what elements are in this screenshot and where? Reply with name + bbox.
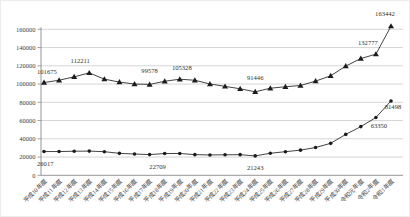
data-point-circle-marker [193, 153, 197, 157]
data-point-circle-marker [253, 154, 257, 158]
data-point-circle-marker [299, 148, 303, 152]
data-point-circle-marker [103, 150, 107, 154]
y-axis-tick-label: 120000 [16, 62, 36, 69]
data-point-circle-marker [72, 149, 76, 153]
data-point-circle-marker [359, 125, 363, 129]
data-point-circle-marker [314, 146, 318, 150]
data-point-circle-marker [148, 153, 152, 157]
data-point-circle-marker [208, 153, 212, 157]
data-point-circle-marker [178, 152, 182, 156]
data-point-value-label: 163442 [375, 10, 395, 17]
data-point-value-label: 63350 [371, 122, 388, 129]
data-point-circle-marker [42, 150, 46, 154]
data-point-circle-marker [163, 152, 167, 156]
data-point-value-label: 105328 [172, 64, 192, 71]
y-axis-tick-label: 0 [32, 172, 35, 179]
data-point-triangle-marker [328, 73, 334, 78]
data-point-value-label: 22709 [149, 163, 166, 170]
data-point-value-label: 91446 [247, 74, 264, 81]
data-point-triangle-marker [373, 51, 379, 56]
data-point-value-label: 21243 [247, 164, 264, 171]
line-chart-figure: 0200004000060000800001000001200001400001… [0, 0, 410, 217]
data-point-triangle-marker [177, 76, 183, 81]
lower-circle-series-line [44, 101, 391, 156]
y-axis-tick-label: 60000 [19, 117, 35, 124]
data-point-circle-marker [118, 152, 122, 156]
data-point-circle-marker [374, 116, 378, 120]
data-point-circle-marker [329, 142, 333, 146]
data-point-circle-marker [344, 133, 348, 137]
y-axis-tick-label: 40000 [19, 135, 35, 142]
data-point-triangle-marker [86, 70, 92, 75]
data-point-triangle-marker [388, 23, 394, 28]
data-point-value-label: 81498 [385, 103, 402, 110]
data-point-value-label: 26017 [37, 160, 54, 167]
line-chart-canvas: 0200004000060000800001000001200001400001… [1, 1, 410, 217]
data-point-circle-marker [133, 152, 137, 156]
y-axis-tick-label: 100000 [16, 80, 36, 87]
data-point-value-label: 112211 [71, 57, 90, 64]
y-axis-tick-label: 20000 [19, 153, 35, 160]
data-point-value-label: 99578 [141, 67, 158, 74]
y-axis-tick-label: 80000 [19, 99, 35, 106]
upper-triangle-series-line [44, 26, 391, 92]
data-point-circle-marker [57, 150, 61, 154]
data-point-value-label: 101675 [37, 68, 57, 75]
y-axis-tick-label: 160000 [16, 26, 36, 33]
y-axis-tick-label: 140000 [16, 44, 36, 51]
data-point-circle-marker [87, 149, 91, 153]
data-point-value-label: 132777 [358, 39, 378, 46]
data-point-circle-marker [269, 151, 273, 155]
data-point-circle-marker [284, 150, 288, 154]
data-point-circle-marker [223, 153, 227, 157]
data-point-circle-marker [238, 153, 242, 157]
